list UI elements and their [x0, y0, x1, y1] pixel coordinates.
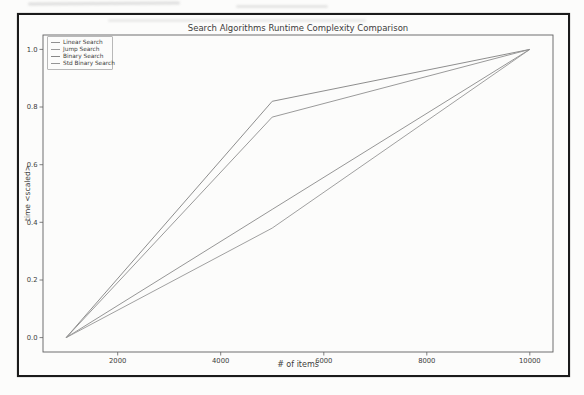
- legend-item: Jump Search: [51, 46, 109, 53]
- legend-line-swatch: [51, 56, 60, 57]
- legend: Linear SearchJump SearchBinary SearchStd…: [47, 36, 113, 70]
- legend-item: Std Binary Search: [51, 60, 109, 67]
- scan-smudge: [28, 1, 180, 5]
- scanned-page: Search Algorithms Runtime Complexity Com…: [0, 0, 584, 395]
- legend-label: Binary Search: [63, 53, 103, 60]
- legend-item: Linear Search: [51, 39, 109, 46]
- x-axis-label: # of items: [43, 360, 553, 369]
- chart-title: Search Algorithms Runtime Complexity Com…: [43, 24, 553, 33]
- legend-line-swatch: [51, 49, 60, 50]
- legend-line-swatch: [51, 42, 60, 43]
- legend-label: Linear Search: [63, 39, 103, 46]
- legend-item: Binary Search: [51, 53, 109, 60]
- legend-label: Jump Search: [63, 46, 99, 53]
- scan-smudge: [236, 5, 328, 8]
- legend-label: Std Binary Search: [63, 60, 115, 67]
- y-axis-label: time <scaled>: [23, 165, 32, 221]
- legend-line-swatch: [51, 63, 60, 64]
